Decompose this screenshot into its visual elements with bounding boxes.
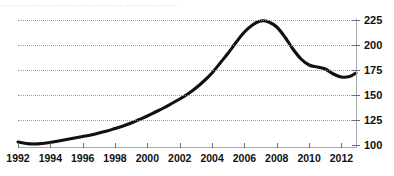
cropped-caption-text: — —— —— — ——— —— ——— — ———— ———	[0, 0, 394, 9]
y-axis-label-225: 225	[364, 15, 382, 26]
gridline-y-225	[18, 20, 356, 21]
plot-area	[18, 20, 356, 145]
y-axis-line	[356, 18, 357, 148]
y-axis-label-150: 150	[364, 90, 382, 101]
x-axis-label-2000: 2000	[136, 152, 159, 164]
gridline-y-150	[18, 95, 356, 96]
x-tick-2000	[147, 143, 148, 148]
series-line-index	[18, 20, 356, 145]
x-tick-1996	[83, 143, 84, 148]
gridline-y-200	[18, 45, 356, 46]
y-tick-225	[352, 20, 360, 21]
line-chart: — —— —— — ——— —— ——— — ———— ——— 10012515…	[0, 0, 394, 176]
x-axis-label-1996: 1996	[71, 152, 94, 164]
x-tick-2006	[244, 143, 245, 148]
y-tick-150	[352, 95, 360, 96]
x-tick-2008	[277, 143, 278, 148]
gridline-y-175	[18, 70, 356, 71]
x-axis-label-2004: 2004	[200, 152, 223, 164]
y-axis-label-125: 125	[364, 115, 382, 126]
x-axis-label-2010: 2010	[297, 152, 320, 164]
x-tick-1998	[115, 143, 116, 148]
x-tick-2010	[309, 143, 310, 148]
x-axis-label-2008: 2008	[265, 152, 288, 164]
x-axis-label-1992: 1992	[6, 152, 29, 164]
x-axis-label-2002: 2002	[168, 152, 191, 164]
y-tick-200	[352, 45, 360, 46]
x-tick-2012	[341, 143, 342, 148]
y-axis-label-100: 100	[364, 140, 382, 151]
x-tick-2004	[212, 143, 213, 148]
x-axis-label-1998: 1998	[103, 152, 126, 164]
x-axis-label-2006: 2006	[233, 152, 256, 164]
x-axis-line	[18, 147, 357, 148]
x-axis-label-1994: 1994	[39, 152, 62, 164]
y-axis-label-175: 175	[364, 65, 382, 76]
y-tick-125	[352, 120, 360, 121]
y-tick-175	[352, 70, 360, 71]
y-tick-100	[352, 145, 360, 146]
x-tick-2002	[180, 143, 181, 148]
x-tick-1994	[50, 143, 51, 148]
y-axis-label-200: 200	[364, 40, 382, 51]
gridline-y-125	[18, 120, 356, 121]
x-tick-1992	[18, 143, 19, 148]
x-axis-label-2012: 2012	[330, 152, 353, 164]
